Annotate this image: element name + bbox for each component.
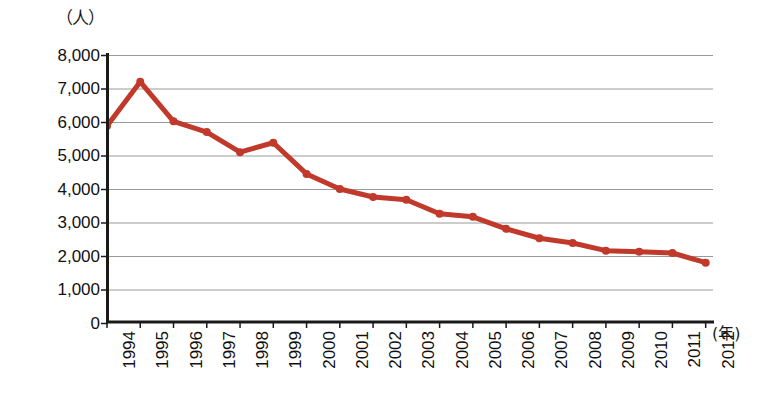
x-tick-label: 2000 [321, 331, 338, 401]
x-tick-label: 2001 [354, 331, 371, 401]
x-tick-label: 1997 [221, 331, 238, 401]
x-tick-label: 1998 [254, 331, 271, 401]
x-tick-label: 2002 [387, 331, 404, 401]
x-tick-label: 2007 [553, 331, 570, 401]
x-tick-label: 2004 [454, 331, 471, 401]
x-axis-unit-label: (年) [712, 320, 740, 344]
x-tick-label: 2006 [520, 331, 537, 401]
x-tick-label: 2009 [620, 331, 637, 401]
x-tick-label: 2010 [653, 331, 670, 401]
x-tick-label: 2003 [420, 331, 437, 401]
x-tick-label: 1994 [121, 331, 138, 401]
x-tick-label: 2011 [686, 331, 703, 401]
x-tick-label: 1999 [287, 331, 304, 401]
line-chart: （人） 8,000 7,000 6,000 5,000 4,000 3,000 … [0, 0, 766, 405]
x-axis-tick-labels: 1994199519961997199819992000200120022003… [0, 0, 766, 405]
x-tick-label: 2005 [487, 331, 504, 401]
x-tick-label: 1995 [154, 331, 171, 401]
x-tick-label: 2008 [587, 331, 604, 401]
x-tick-label: 1996 [188, 331, 205, 401]
